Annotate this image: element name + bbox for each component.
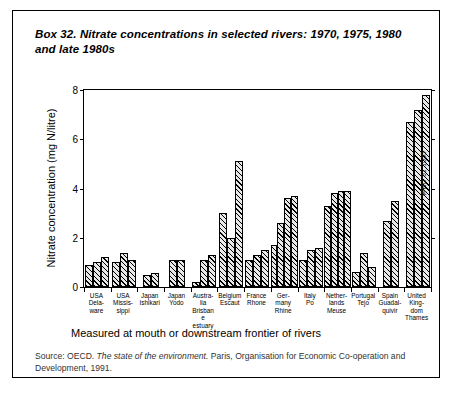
bar (151, 273, 159, 287)
x-category-label: JapanIshikari (136, 292, 163, 329)
bar-group (351, 90, 378, 287)
bar (331, 193, 338, 287)
bar-container (84, 90, 431, 287)
y-tick-mark-right (431, 189, 435, 190)
figure-box: Box 32. Nitrate concentrations in select… (12, 10, 440, 378)
bar-group (298, 90, 325, 287)
bar-group (164, 90, 191, 287)
y-tick-mark-right (431, 90, 435, 91)
x-category-label: SpainGuadal-quivir (377, 292, 404, 329)
bar-group (271, 90, 298, 287)
y-tick-label: 4 (72, 183, 78, 194)
measured-note: Measured at mouth or downstream frontier… (71, 327, 321, 339)
x-axis-category-labels: USADela-wareUSAMissis-sippiJapanIshikari… (83, 292, 430, 329)
bar (85, 265, 93, 287)
y-tick-mark-right (431, 139, 435, 140)
bar-group (244, 90, 271, 287)
bar (192, 282, 200, 287)
bar (101, 257, 109, 287)
bar (299, 260, 307, 287)
bar (200, 260, 208, 287)
y-axis-title: Nitrate concentration (mg N/litre) (43, 89, 59, 286)
bar (383, 221, 391, 287)
x-category-label: USADela-ware (83, 292, 110, 329)
x-category-label: BelgiumEscaut (216, 292, 243, 329)
bar (277, 223, 284, 287)
bar (143, 275, 151, 287)
bar (169, 260, 177, 287)
x-category-label: Austra-liaBrisbaneestuary (190, 292, 217, 329)
bar (344, 191, 351, 287)
x-category-label: Ger-manyRhine (270, 292, 297, 329)
bar (391, 201, 399, 287)
bar-group (378, 90, 405, 287)
bar (93, 262, 101, 287)
bar (261, 250, 269, 287)
y-tick-label: 2 (72, 232, 78, 243)
plot-area: 02468 (83, 89, 432, 288)
x-tick-mark (431, 287, 432, 292)
bar-group (111, 90, 138, 287)
bar (253, 255, 261, 287)
x-category-label: FranceRhone (243, 292, 270, 329)
y-tick-mark (80, 90, 84, 91)
bar (177, 260, 185, 287)
bar (128, 260, 136, 287)
bar (208, 255, 216, 287)
bar (227, 238, 235, 287)
bar (245, 260, 253, 287)
bar (406, 122, 414, 287)
bar (112, 262, 120, 287)
who-watermark: WHO 91 1055 (420, 151, 427, 196)
bar (315, 248, 323, 287)
bar-group (84, 90, 111, 287)
y-tick-label: 0 (72, 282, 78, 293)
bar-group (324, 90, 351, 287)
x-category-label: JapanYodo (163, 292, 190, 329)
y-tick-mark-right (431, 238, 435, 239)
bar-group (137, 90, 164, 287)
bar (284, 198, 291, 287)
figure-title: Box 32. Nitrate concentrations in select… (35, 27, 405, 57)
y-axis-title-text: Nitrate concentration (mg N/litre) (45, 108, 57, 267)
x-category-label: UnitedKing-domThames (403, 292, 430, 329)
bar (338, 191, 345, 287)
source-title: The state of the environment. (97, 351, 209, 361)
x-category-label: PortugalTejo (350, 292, 377, 329)
y-tick-label: 8 (72, 85, 78, 96)
bar-group (217, 90, 244, 287)
source-note: Source: OECD. The state of the environme… (35, 351, 425, 374)
bar-group (191, 90, 218, 287)
bar (352, 272, 360, 287)
y-tick-mark (80, 189, 84, 190)
bar (235, 161, 243, 287)
bar (368, 267, 376, 287)
x-category-label: Nether-landsMeuse (323, 292, 350, 329)
y-tick-label: 6 (72, 134, 78, 145)
bar (324, 206, 331, 287)
bar (120, 253, 128, 287)
bar (271, 245, 278, 287)
y-tick-mark (80, 139, 84, 140)
bar (414, 110, 422, 287)
bar (219, 213, 227, 287)
bar (291, 196, 298, 287)
x-category-label: USAMissis-sippi (110, 292, 137, 329)
y-tick-mark (80, 238, 84, 239)
bar (360, 253, 368, 287)
source-prefix: Source: OECD. (35, 351, 97, 361)
x-category-label: ItalyPo (297, 292, 324, 329)
bar (307, 250, 315, 287)
